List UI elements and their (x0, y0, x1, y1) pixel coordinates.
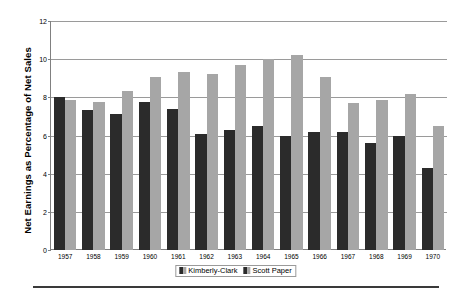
bar-group (419, 21, 447, 250)
bar-scott-paper (150, 77, 161, 250)
bar-kimberly-clark (82, 110, 93, 250)
bar-kimberly-clark (393, 136, 404, 250)
bar-kimberly-clark (54, 97, 65, 250)
y-tick-label: 10 (39, 56, 47, 63)
bar-group (136, 21, 164, 250)
bar-group (390, 21, 418, 250)
bar-scott-paper (93, 102, 104, 250)
bar-scott-paper (348, 103, 359, 250)
x-tick-label: 1960 (136, 250, 164, 260)
bar-group (51, 21, 79, 250)
x-tick-label: 1968 (362, 250, 390, 260)
x-tick-label: 1966 (306, 250, 334, 260)
x-tick-label: 1969 (390, 250, 418, 260)
chart-figure: Net Earnings as Percentage of Net Sales … (0, 0, 472, 296)
y-tick-label: 4 (43, 170, 47, 177)
bar-kimberly-clark (110, 114, 121, 250)
bar-kimberly-clark (224, 130, 235, 250)
legend-swatch-kimberly-clark (179, 267, 186, 274)
bar-scott-paper (207, 74, 218, 250)
x-tick-label: 1964 (249, 250, 277, 260)
bar-group (192, 21, 220, 250)
bar-kimberly-clark (280, 136, 291, 251)
bar-scott-paper (320, 77, 331, 250)
x-tick-label: 1962 (192, 250, 220, 260)
bar-kimberly-clark (167, 109, 178, 250)
chart-legend: Kimberly-Clark Scott Paper (175, 265, 296, 277)
bottom-divider (33, 286, 439, 288)
bar-group (79, 21, 107, 250)
x-tick-label: 1959 (108, 250, 136, 260)
bar-scott-paper (405, 94, 416, 250)
bar-kimberly-clark (308, 132, 319, 250)
bar-scott-paper (65, 100, 76, 250)
x-tick-label: 1958 (79, 250, 107, 260)
bars-container (51, 21, 447, 250)
bar-scott-paper (122, 91, 133, 250)
legend-swatch-scott-paper (243, 267, 250, 274)
legend-entry-kimberly-clark: Kimberly-Clark (179, 267, 237, 275)
bar-scott-paper (178, 72, 189, 250)
bar-scott-paper (291, 55, 302, 250)
bar-group (249, 21, 277, 250)
bar-group (334, 21, 362, 250)
x-tick-label: 1961 (164, 250, 192, 260)
x-tick-label: 1970 (419, 250, 447, 260)
bar-kimberly-clark (337, 132, 348, 250)
bar-group (277, 21, 305, 250)
bar-group (306, 21, 334, 250)
bar-scott-paper (433, 126, 444, 250)
y-tick-label: 0 (43, 247, 47, 254)
bar-group (221, 21, 249, 250)
bar-kimberly-clark (365, 143, 376, 250)
x-tick-label: 1963 (221, 250, 249, 260)
legend-label-scott-paper: Scott Paper (252, 267, 291, 275)
bar-kimberly-clark (252, 126, 263, 250)
bar-kimberly-clark (422, 168, 433, 250)
y-tick-label: 8 (43, 94, 47, 101)
x-tick-label: 1957 (51, 250, 79, 260)
bar-kimberly-clark (195, 134, 206, 250)
y-tick-label: 2 (43, 208, 47, 215)
bar-scott-paper (263, 59, 274, 250)
x-tick-label: 1967 (334, 250, 362, 260)
y-tick-label: 6 (43, 132, 47, 139)
y-axis-title: Net Earnings as Percentage of Net Sales (22, 21, 33, 261)
bar-scott-paper (376, 100, 387, 250)
plot-area: 024681012 195719581959196019611962196319… (50, 21, 446, 250)
x-tick-label: 1965 (277, 250, 305, 260)
bar-group (164, 21, 192, 250)
bar-group (108, 21, 136, 250)
legend-label-kimberly-clark: Kimberly-Clark (188, 267, 237, 275)
y-tick-label: 12 (39, 18, 47, 25)
bar-kimberly-clark (139, 102, 150, 250)
legend-entry-scott-paper: Scott Paper (243, 267, 291, 275)
bar-group (362, 21, 390, 250)
bar-scott-paper (235, 65, 246, 250)
